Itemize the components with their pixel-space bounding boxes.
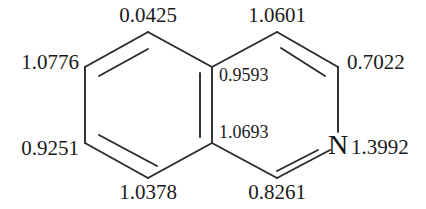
bond-left-bottom-left [85,143,148,178]
bond-right-top-right [277,32,338,67]
value-label-top-left: 0.0425 [119,5,177,26]
double-bond-inner-right-top [281,48,325,76]
molecule-figure: N 0.0425 1.0601 1.0776 0.9251 1.0378 0.8… [0,0,426,209]
value-label-nitrogen: 1.3992 [351,137,409,158]
bond-n-to-bottom [277,150,330,178]
value-label-top-right: 1.0601 [248,5,306,26]
ring-skeleton [0,0,426,209]
value-label-left-lower: 0.9251 [21,138,79,159]
value-label-fusion-lower: 1.0693 [219,123,269,141]
bond-left-top-right [148,32,212,67]
bond-right-top-left [212,32,277,67]
bond-bottom-right-left [212,143,277,178]
bond-left-top-left [85,32,148,67]
atom-label-nitrogen: N [328,131,348,159]
double-bond-inner-left-bottom [99,135,157,166]
value-label-right-upper: 0.7022 [347,52,405,73]
value-label-left-upper: 1.0776 [21,52,79,73]
value-label-bottom-right: 0.8261 [248,182,306,203]
value-label-fusion-upper: 0.9593 [219,66,269,84]
value-label-bottom-left: 1.0378 [119,182,177,203]
bond-left-bottom-right [148,143,212,178]
double-bond-inner-left-top [99,49,148,76]
